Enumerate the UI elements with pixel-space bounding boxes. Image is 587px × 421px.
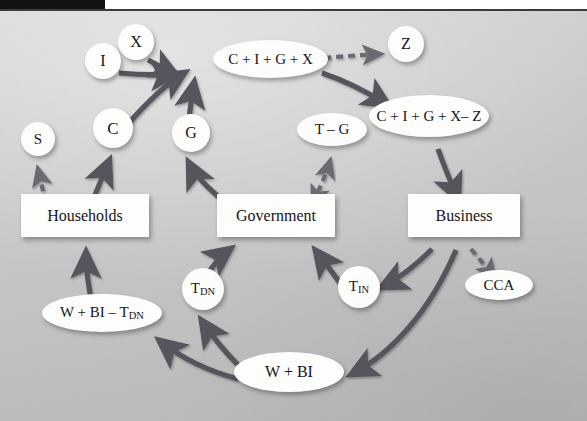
node-budget-surplus-label: T – G bbox=[315, 122, 350, 137]
node-aggregate-expenditure-label: C + I + G + X bbox=[228, 52, 313, 67]
node-aggregate-expenditure[interactable]: C + I + G + X bbox=[213, 40, 328, 78]
node-Z[interactable]: Z bbox=[388, 26, 424, 62]
node-direct-taxes-label: TDN bbox=[191, 281, 216, 298]
node-gdp-less-imports[interactable]: C + I + G + X– Z bbox=[369, 95, 489, 137]
node-factor-income[interactable]: W + BI bbox=[234, 352, 344, 392]
edge-wbi-to-tdn bbox=[202, 321, 240, 367]
node-CCA-label: CCA bbox=[484, 278, 515, 293]
node-X[interactable]: X bbox=[118, 24, 154, 60]
node-I-label: I bbox=[100, 53, 105, 69]
figure-page: X I C + I + G + X Z C + I + G + X– Z C G… bbox=[0, 0, 587, 421]
edge-i-to-cigx bbox=[119, 73, 176, 75]
node-business[interactable]: Business bbox=[408, 194, 520, 237]
node-business-label: Business bbox=[436, 208, 493, 224]
node-factor-income-label: W + BI bbox=[265, 364, 313, 380]
node-disposable-income[interactable]: W + BI – TDN bbox=[42, 294, 162, 332]
node-S[interactable]: S bbox=[21, 122, 55, 156]
node-C-label: C bbox=[107, 120, 118, 137]
edge-wbi-to-wbitdn bbox=[160, 341, 238, 379]
node-CCA[interactable]: CCA bbox=[465, 270, 533, 300]
edge-cigxz-to-business bbox=[438, 149, 458, 199]
edge-cigx-to-z bbox=[324, 54, 380, 58]
edge-c-to-cigx bbox=[128, 73, 184, 124]
edge-business-to-tin bbox=[382, 249, 432, 287]
node-I[interactable]: I bbox=[85, 43, 121, 79]
node-direct-taxes[interactable]: TDN bbox=[182, 268, 224, 310]
node-households-label: Households bbox=[47, 208, 123, 224]
node-gdp-less-imports-label: C + I + G + X– Z bbox=[377, 109, 482, 124]
edge-cigx-to-cigxz bbox=[322, 73, 388, 105]
node-C[interactable]: C bbox=[93, 108, 133, 148]
circular-flow-diagram-panel: X I C + I + G + X Z C + I + G + X– Z C G… bbox=[0, 11, 587, 421]
node-Z-label: Z bbox=[401, 36, 411, 52]
node-budget-surplus[interactable]: T – G bbox=[297, 113, 367, 146]
node-indirect-taxes-label: TIN bbox=[349, 279, 369, 296]
node-G-label: G bbox=[185, 125, 197, 141]
node-G[interactable]: G bbox=[172, 114, 210, 152]
edge-tin-to-government bbox=[316, 251, 340, 283]
node-X-label: X bbox=[130, 34, 142, 50]
node-government-label: Government bbox=[236, 208, 316, 224]
top-black-tab bbox=[0, 0, 105, 9]
node-S-label: S bbox=[34, 132, 42, 147]
node-indirect-taxes[interactable]: TIN bbox=[338, 266, 380, 308]
node-disposable-income-label: W + BI – TDN bbox=[60, 305, 144, 322]
node-households[interactable]: Households bbox=[21, 194, 149, 237]
node-government[interactable]: Government bbox=[217, 194, 335, 237]
